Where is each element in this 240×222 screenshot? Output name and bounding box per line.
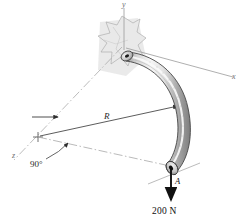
point-a-label: A <box>175 177 180 186</box>
z-axis-label: z <box>12 152 15 160</box>
angle-label: 90° <box>30 160 43 169</box>
angle-arc-icon <box>46 143 68 159</box>
radius-label: R <box>104 112 110 121</box>
diagram-canvas <box>0 0 240 222</box>
force-label: 200 N <box>152 207 177 217</box>
y-axis-label: y <box>122 1 126 9</box>
engineering-diagram: y x z R 90° A 200 N <box>0 0 240 222</box>
x-axis-label: x <box>232 73 236 81</box>
